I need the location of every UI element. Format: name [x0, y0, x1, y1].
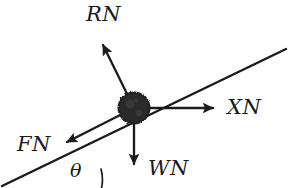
incline-angle-arc [99, 169, 102, 188]
free-body-diagram-figure: RN XN FN WN θ [0, 0, 300, 188]
vector-label-xn: XN [227, 97, 261, 118]
incline-angle-label: θ [70, 161, 81, 180]
vector-label-rn: RN [86, 4, 121, 25]
vector-label-wn: WN [148, 158, 189, 179]
point-mass-block [118, 92, 151, 125]
vector-label-fn: FN [17, 134, 51, 155]
